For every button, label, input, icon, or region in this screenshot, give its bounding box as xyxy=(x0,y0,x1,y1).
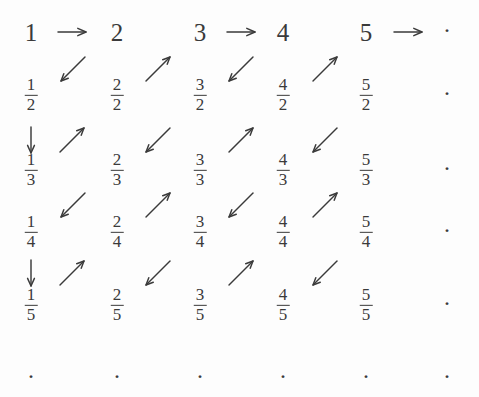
arrow-right-5-to-dots-icon xyxy=(393,17,423,47)
grid-cell-fraction-2-over-4: 24 xyxy=(111,213,124,251)
grid-cell-fraction-3-over-5: 35 xyxy=(194,286,207,324)
arrow-upright-r2c4-to-r1c5-icon xyxy=(312,56,338,82)
arrow-downleft-r1c4-to-r2c3-icon xyxy=(228,56,254,82)
grid-cell-fraction-3-over-4: 34 xyxy=(194,213,207,251)
grid-cell-ellipsis-dot: · xyxy=(443,224,451,241)
grid-cell-ellipsis-dot: · xyxy=(443,370,451,387)
grid-cell-ellipsis-dot: · xyxy=(443,87,451,104)
fraction-denominator: 2 xyxy=(111,96,124,114)
fraction-numerator: 2 xyxy=(111,151,124,169)
fraction-numerator: 2 xyxy=(111,286,124,304)
fraction-denominator: 5 xyxy=(360,306,373,324)
fraction-denominator: 3 xyxy=(111,171,124,189)
grid-cell-fraction-5-over-2: 52 xyxy=(360,76,373,114)
fraction-numerator: 3 xyxy=(194,151,207,169)
fraction-numerator: 5 xyxy=(360,286,373,304)
fraction-numerator: 1 xyxy=(25,76,38,94)
arrow-downleft-r4c3-to-r5c2-icon xyxy=(145,260,171,286)
arrow-downleft-r2c3-to-r3c2-icon xyxy=(145,127,171,153)
arrow-upright-r5c3-to-r4c4-icon xyxy=(228,260,254,286)
fraction-numerator: 4 xyxy=(277,213,290,231)
grid-cell-ellipsis-dot: · xyxy=(443,162,451,179)
fraction-denominator: 2 xyxy=(25,96,38,114)
fraction-numerator: 5 xyxy=(360,151,373,169)
fraction-denominator: 2 xyxy=(277,96,290,114)
fraction-denominator: 3 xyxy=(360,171,373,189)
arrow-upright-r5c1-to-r4c2-icon xyxy=(59,260,85,286)
arrow-right-1-to-2-icon xyxy=(57,17,87,47)
fraction-denominator: 4 xyxy=(111,233,124,251)
arrow-downleft-r3c2-to-r4c1-icon xyxy=(60,192,86,218)
grid-cell-fraction-5-over-3: 53 xyxy=(360,151,373,189)
grid-cell-fraction-2-over-2: 22 xyxy=(111,76,124,114)
grid-cell-ellipsis-dot: · xyxy=(279,370,287,387)
grid-cell-fraction-1-over-5: 15 xyxy=(25,286,38,324)
fraction-denominator: 4 xyxy=(194,233,207,251)
grid-cell-fraction-5-over-4: 54 xyxy=(360,213,373,251)
grid-cell-ellipsis-dot: · xyxy=(113,370,121,387)
grid-cell-ellipsis-dot: · xyxy=(443,24,451,41)
grid-cell-fraction-4-over-2: 42 xyxy=(277,76,290,114)
fraction-denominator: 3 xyxy=(194,171,207,189)
grid-cell-fraction-4-over-4: 44 xyxy=(277,213,290,251)
fraction-denominator: 4 xyxy=(360,233,373,251)
arrow-upright-r3c3-to-r2c4-icon xyxy=(228,127,254,153)
fraction-numerator: 5 xyxy=(360,76,373,94)
arrow-down-r2c1-to-r3c1-icon xyxy=(17,126,45,154)
fraction-numerator: 3 xyxy=(194,76,207,94)
grid-cell-ellipsis-dot: · xyxy=(443,297,451,314)
grid-cell-ellipsis-dot: · xyxy=(362,370,370,387)
arrow-downleft-r4c5-to-r5c4-icon xyxy=(312,260,338,286)
fraction-numerator: 2 xyxy=(111,213,124,231)
fraction-denominator: 5 xyxy=(111,306,124,324)
grid-cell-fraction-4-over-3: 43 xyxy=(277,151,290,189)
grid-cell-fraction-2-over-3: 23 xyxy=(111,151,124,189)
fraction-denominator: 3 xyxy=(25,171,38,189)
grid-cell-fraction-3-over-2: 32 xyxy=(194,76,207,114)
fraction-numerator: 3 xyxy=(194,213,207,231)
fraction-numerator: 3 xyxy=(194,286,207,304)
grid-cell-integer-2: 2 xyxy=(111,20,124,45)
fraction-denominator: 5 xyxy=(277,306,290,324)
grid-cell-ellipsis-dot: · xyxy=(196,370,204,387)
fraction-denominator: 4 xyxy=(277,233,290,251)
fraction-denominator: 2 xyxy=(360,96,373,114)
arrow-upright-r3c1-to-r2c2-icon xyxy=(59,127,85,153)
fraction-denominator: 2 xyxy=(194,96,207,114)
arrow-downleft-r1c2-to-r2c1-icon xyxy=(60,56,86,82)
fraction-numerator: 4 xyxy=(277,151,290,169)
fraction-denominator: 5 xyxy=(194,306,207,324)
arrow-upright-r2c2-to-r1c3-icon xyxy=(145,56,171,82)
cantor-enumeration-figure: 12345·1222324252·1323334353·1424344454·1… xyxy=(0,0,479,397)
grid-cell-integer-5: 5 xyxy=(360,20,373,45)
arrow-upright-r4c4-to-r3c5-icon xyxy=(312,192,338,218)
fraction-numerator: 1 xyxy=(25,286,38,304)
grid-cell-integer-4: 4 xyxy=(277,20,290,45)
arrow-right-3-to-4-icon xyxy=(226,17,256,47)
arrow-upright-r4c2-to-r3c3-icon xyxy=(145,192,171,218)
fraction-numerator: 4 xyxy=(277,286,290,304)
grid-cell-ellipsis-dot: · xyxy=(27,370,35,387)
fraction-denominator: 5 xyxy=(25,306,38,324)
arrow-downleft-r2c5-to-r3c4-icon xyxy=(312,127,338,153)
fraction-denominator: 4 xyxy=(25,233,38,251)
grid-cell-fraction-1-over-4: 14 xyxy=(25,213,38,251)
grid-cell-fraction-1-over-2: 12 xyxy=(25,76,38,114)
arrow-downleft-r3c4-to-r4c3-icon xyxy=(228,192,254,218)
fraction-numerator: 5 xyxy=(360,213,373,231)
grid-cell-fraction-1-over-3: 13 xyxy=(25,151,38,189)
fraction-denominator: 3 xyxy=(277,171,290,189)
grid-cell-fraction-4-over-5: 45 xyxy=(277,286,290,324)
grid-cell-fraction-5-over-5: 55 xyxy=(360,286,373,324)
fraction-numerator: 2 xyxy=(111,76,124,94)
arrow-down-r4c1-to-r5c1-icon xyxy=(17,259,45,287)
grid-cell-fraction-2-over-5: 25 xyxy=(111,286,124,324)
fraction-numerator: 1 xyxy=(25,213,38,231)
fraction-numerator: 4 xyxy=(277,76,290,94)
grid-cell-integer-3: 3 xyxy=(194,20,207,45)
grid-cell-fraction-3-over-3: 33 xyxy=(194,151,207,189)
grid-cell-integer-1: 1 xyxy=(25,20,38,45)
